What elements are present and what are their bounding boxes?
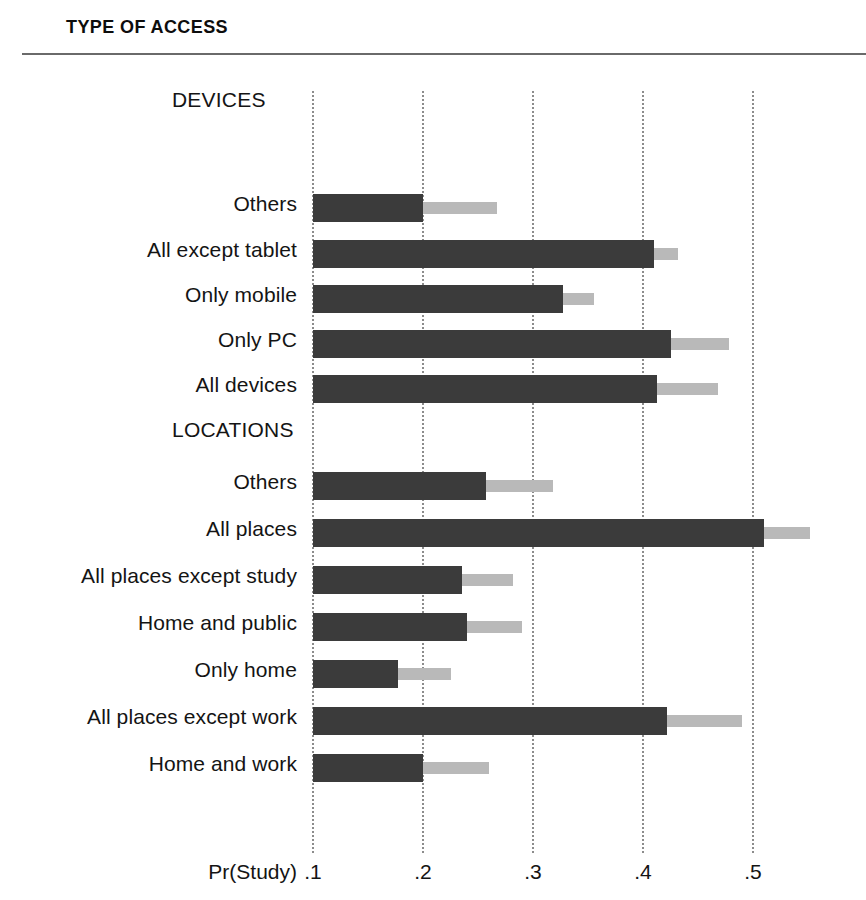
gridline-x-3 [532,91,534,853]
bar-estimate [313,707,667,735]
category-label: Home and public [0,611,297,635]
bar-estimate [313,285,563,313]
x-tick-label: .5 [723,860,783,884]
category-label: All except tablet [0,238,297,262]
x-tick-label: .4 [613,860,673,884]
category-label: Only PC [0,328,297,352]
x-tick-label: .3 [503,860,563,884]
x-axis-title: Pr(Study) [0,860,297,884]
gridline-x-5 [752,91,754,853]
page-title: TYPE OF ACCESS [66,17,228,38]
bar-estimate [313,240,654,268]
category-label: All devices [0,373,297,397]
bar-estimate [313,330,671,358]
category-label: Home and work [0,752,297,776]
category-label: Only mobile [0,283,297,307]
bar-estimate [313,660,398,688]
gridline-x-4 [642,91,644,853]
category-label: Others [0,470,297,494]
category-label: All places except study [0,564,297,588]
category-label: All places except work [0,705,297,729]
bar-estimate [313,613,467,641]
bar-estimate [313,472,486,500]
bar-estimate [313,194,423,222]
bar-estimate [313,519,764,547]
chart-figure: TYPE OF ACCESS DEVICESOthersAll except t… [0,0,866,900]
category-label: Others [0,192,297,216]
bar-estimate [313,566,462,594]
plot-area: DEVICESOthersAll except tabletOnly mobil… [0,60,866,900]
x-tick-label: .2 [393,860,453,884]
bar-estimate [313,375,657,403]
bar-estimate [313,754,423,782]
category-label: Only home [0,658,297,682]
group-header-devices: DEVICES [172,88,266,112]
group-header-locations: LOCATIONS [172,418,294,442]
title-divider [22,53,866,55]
category-label: All places [0,517,297,541]
